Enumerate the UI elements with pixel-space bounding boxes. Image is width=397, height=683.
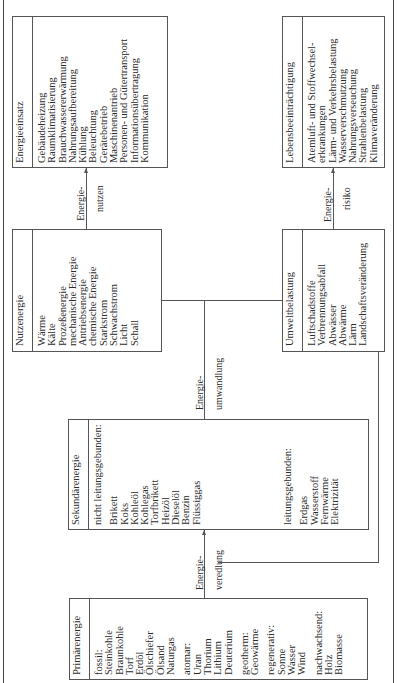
label-energieveredlung: Energie- veredlung — [190, 550, 228, 590]
primaerenergie-list: fossil:SteinkohleBraunkohleTorfErdölÖlsc… — [94, 611, 345, 675]
header-divider — [88, 420, 89, 529]
header-divider — [302, 230, 303, 351]
header-divider — [89, 599, 90, 679]
arrow-up-icon — [331, 168, 335, 173]
energieeinsatz-title: Energieeinsatz — [15, 101, 25, 163]
list-item: nicht leitungsgebunden: — [93, 424, 103, 525]
connector-bypass-vertical — [378, 352, 379, 563]
list-item: Biomasse — [334, 611, 344, 675]
list-item: Deuterium — [224, 611, 234, 675]
umweltbelastung-list: LuftschadstoffeVerbrennungsabfallAbwässe… — [307, 243, 369, 346]
page-frame-left — [3, 0, 4, 683]
list-item: Wind — [297, 611, 307, 675]
umweltbelastung-title: Umweltbelastung — [285, 272, 295, 346]
list-item: leitungsgebunden: — [283, 448, 293, 525]
list-item: Elektrizität — [330, 448, 340, 525]
list-item: Landschaftsveränderung — [358, 243, 368, 346]
arrow-up-icon — [202, 530, 206, 535]
list-item: Kommunikation — [140, 39, 150, 163]
label-energierisiko: Energie- risiko — [318, 187, 356, 222]
label-energienutzen: Energie- nutzen — [71, 185, 109, 222]
list-item: Klimaveränderung — [369, 38, 379, 163]
sekundaerenergie-list-leitungsgebunden: leitungsgebunden:ErdgasWasserstoffFernwä… — [283, 448, 340, 525]
header-divider — [32, 17, 33, 167]
arrow-up-icon — [84, 168, 88, 173]
energieeinsatz-list: GebäudeheizungRaumklimatisierungBrauchwa… — [37, 39, 150, 163]
nutzenergie-list: WärmeKälteProzeßenergiemechanische Energ… — [37, 257, 140, 346]
connector-bypass-horizontal — [218, 562, 378, 563]
nutzenergie-title: Nutzenergie — [15, 295, 25, 346]
header-divider — [302, 17, 303, 167]
header-divider — [32, 230, 33, 351]
connector-umwandlung-horizontal — [162, 300, 282, 301]
sekundaerenergie-list-nicht-leitungsgebunden: nicht leitungsgebunden:BrikettKoksKohleö… — [93, 424, 202, 525]
list-item: Schall — [130, 257, 140, 346]
list-item: Flüssiggas — [192, 424, 202, 525]
sekundaerenergie-title: Sekundärenergie — [71, 455, 81, 525]
lebensbeeintraechtigung-title: Lebensbeeinträchtigung — [285, 62, 295, 163]
label-energieumwandlung: Energie- umwandlung — [190, 358, 228, 410]
primaerenergie-title: Primärenergie — [72, 616, 82, 675]
lebensbeeintraechtigung-list: Atemluft- und Stoffwechsel-erkrankungenL… — [307, 38, 379, 163]
list-item: Naturgas — [166, 611, 176, 675]
page-frame-right — [393, 0, 394, 683]
list-item: Geowärme — [250, 611, 260, 675]
